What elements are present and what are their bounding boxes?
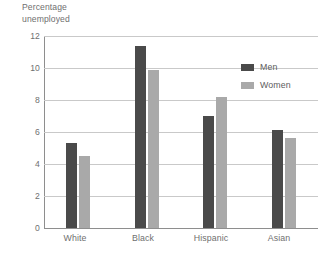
bar-men-asian[interactable] <box>272 130 283 228</box>
gridline <box>44 36 318 37</box>
x-tick-label-black: Black <box>112 233 174 243</box>
chart-legend: Men Women <box>241 60 321 96</box>
y-tick-label: 8 <box>10 95 40 105</box>
y-tick-label: 0 <box>10 223 40 233</box>
y-tick-label: 4 <box>10 159 40 169</box>
bar-women-black[interactable] <box>148 70 159 228</box>
x-tick-label-white: White <box>44 233 106 243</box>
bar-men-hispanic[interactable] <box>203 116 214 228</box>
y-axis-tick-labels: 12 10 8 6 4 2 0 <box>4 36 40 228</box>
x-axis-line <box>44 228 318 229</box>
chart-axis-title: Percentage unemployed <box>22 2 70 25</box>
y-tick-label: 2 <box>10 191 40 201</box>
y-tick-label: 6 <box>10 127 40 137</box>
y-tick-label: 12 <box>10 31 40 41</box>
legend-label-men: Men <box>260 62 277 72</box>
bar-men-black[interactable] <box>135 46 146 228</box>
bar-men-white[interactable] <box>66 143 77 228</box>
legend-item-women[interactable]: Women <box>241 78 321 92</box>
bar-women-hispanic[interactable] <box>216 97 227 228</box>
y-tick-label: 10 <box>10 63 40 73</box>
legend-label-women: Women <box>260 80 291 90</box>
legend-swatch-women-icon <box>241 82 254 89</box>
x-tick-label-asian: Asian <box>248 233 310 243</box>
legend-item-men[interactable]: Men <box>241 60 321 74</box>
bar-women-asian[interactable] <box>285 138 296 228</box>
x-tick-label-hispanic: Hispanic <box>180 233 242 243</box>
gridline <box>44 100 318 101</box>
bar-women-white[interactable] <box>79 156 90 228</box>
legend-swatch-men-icon <box>241 64 254 71</box>
